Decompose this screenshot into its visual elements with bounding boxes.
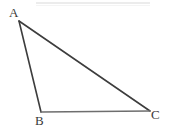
edge-bc [41, 111, 150, 112]
triangle-diagram [0, 0, 171, 136]
vertex-label-b: B [35, 114, 44, 127]
edge-ac [19, 21, 150, 111]
vertex-label-c: C [151, 108, 160, 121]
figure-canvas: A B C [0, 0, 171, 136]
vertex-label-a: A [9, 6, 18, 19]
